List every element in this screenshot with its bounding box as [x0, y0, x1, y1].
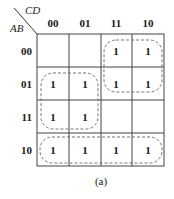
kmap-cell: 1 — [132, 67, 164, 100]
col-header: 01 — [69, 17, 101, 29]
figure-caption: (a) — [14, 175, 174, 187]
kmap-cell: 1 — [69, 133, 101, 166]
kmap-cell: 1 — [37, 67, 69, 100]
col-variable-label: CD — [25, 4, 40, 16]
row-header: 00 — [10, 45, 32, 57]
col-header: 11 — [100, 17, 132, 29]
kmap-cell: 1 — [100, 67, 132, 100]
kmap-cell: 1 — [132, 133, 164, 166]
kmap-cell — [69, 34, 101, 67]
col-header: 00 — [37, 17, 69, 29]
row-header: 01 — [10, 78, 32, 90]
kmap-cell — [37, 34, 69, 67]
kmap-cell — [100, 100, 132, 133]
kmap-cell: 1 — [132, 34, 164, 67]
kmap-cell: 1 — [69, 67, 101, 100]
kmap-cell: 1 — [37, 133, 69, 166]
kmap-cell: 1 — [100, 133, 132, 166]
row-header: 11 — [10, 111, 32, 123]
kmap-cell: 1 — [37, 100, 69, 133]
kmap-cell — [132, 100, 164, 133]
row-variable-label: AB — [10, 22, 23, 34]
kmap-cell: 1 — [100, 34, 132, 67]
kmap-cell: 1 — [69, 100, 101, 133]
row-header: 10 — [10, 144, 32, 156]
col-header: 10 — [132, 17, 164, 29]
